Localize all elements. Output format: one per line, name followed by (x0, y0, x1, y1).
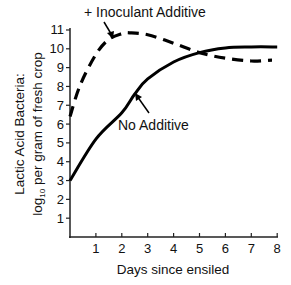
y-tick-label: 3 (57, 173, 64, 188)
svg-text:Lactic Acid Bacteria:: Lactic Acid Bacteria: (12, 73, 27, 195)
x-tick-label: 3 (144, 241, 151, 256)
y-axis-subtitle: log10 per gram of fresh crop (30, 52, 47, 215)
y-tick-label: 1 (57, 211, 64, 226)
series-inoculant-additive (70, 33, 272, 117)
lactic-acid-bacteria-chart: 1234567891011 12345678 Lactic Acid Bacte… (0, 0, 291, 285)
arrow-no-additive-icon (135, 93, 149, 113)
x-tick-label: 6 (222, 241, 229, 256)
series-no-additive (70, 47, 277, 181)
y-tick-label: 4 (57, 154, 64, 169)
y-tick-label: 11 (51, 22, 65, 37)
y-tick-label: 5 (57, 135, 64, 150)
y-tick-label: 8 (57, 79, 64, 94)
svg-text:log10 per gram of fresh crop: log10 per gram of fresh crop (30, 52, 47, 215)
y-tick-label: 9 (57, 60, 64, 75)
y-axis-title: Lactic Acid Bacteria: (12, 73, 27, 195)
y-tick-label: 10 (50, 41, 64, 56)
x-tick-label: 2 (118, 241, 125, 256)
y-axis: 1234567891011 (50, 22, 70, 238)
x-axis-title: Days since ensiled (117, 262, 230, 277)
x-tick-label: 1 (92, 241, 99, 256)
y-tick-label: 7 (57, 98, 64, 113)
x-tick-label: 8 (274, 241, 281, 256)
annotation-no-additive: No Additive (118, 117, 189, 133)
x-tick-label: 5 (196, 241, 203, 256)
x-tick-label: 7 (248, 241, 255, 256)
x-tick-label: 4 (170, 241, 177, 256)
annotation-inoculant-additive: + Inoculant Additive (84, 4, 206, 20)
y-tick-label: 2 (57, 192, 64, 207)
arrow-inoculant-icon (104, 22, 114, 39)
x-axis: 12345678 (69, 233, 281, 256)
y-tick-label: 6 (57, 117, 64, 132)
